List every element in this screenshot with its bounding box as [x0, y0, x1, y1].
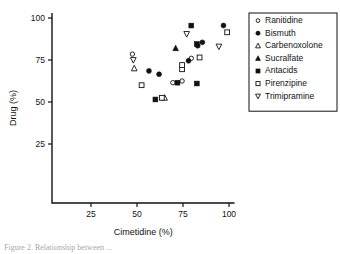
y-tick-label: 100 — [31, 13, 45, 23]
x-tick-label: 50 — [132, 209, 142, 219]
chart-canvas: 255075100255075100Cimetidine (%)Drug (%)… — [0, 0, 340, 254]
legend-marker-antacids — [256, 69, 260, 73]
data-point — [184, 32, 190, 38]
data-point — [216, 44, 222, 50]
x-tick-label: 75 — [178, 209, 188, 219]
legend-label-pirenzipine: Pirenzipine — [265, 78, 307, 88]
data-point — [221, 23, 226, 28]
data-points — [130, 23, 229, 102]
legend-label-bismuth: Bismuth — [265, 28, 296, 38]
legend-marker-bismuth — [256, 31, 260, 35]
axis-spine — [52, 13, 235, 203]
x-tick-label: 25 — [86, 209, 96, 219]
data-point — [197, 55, 202, 60]
axes: 255075100255075100Cimetidine (%)Drug (%) — [8, 13, 236, 237]
y-tick-label: 50 — [36, 97, 46, 107]
data-point — [189, 23, 194, 28]
legend-label-carbenoxolone: Carbenoxolone — [265, 40, 323, 50]
legend-marker-ranitidine — [256, 19, 260, 23]
data-point — [186, 58, 191, 63]
x-tick-label: 100 — [222, 209, 236, 219]
series-antacids — [153, 23, 199, 102]
data-point — [180, 79, 184, 83]
data-point — [130, 52, 134, 56]
legend-marker-pirenzipine — [256, 82, 260, 86]
scatter-plot-figure: 255075100255075100Cimetidine (%)Drug (%)… — [0, 0, 340, 254]
legend-label-trimipramine: Trimipramine — [265, 91, 315, 101]
series-sucralfate — [173, 45, 179, 51]
data-point — [200, 40, 205, 45]
data-point — [139, 83, 144, 88]
data-point — [173, 45, 179, 51]
data-point — [146, 68, 151, 73]
data-point — [131, 65, 137, 71]
legend-label-sucralfate: Sucralfate — [265, 53, 304, 63]
data-point — [175, 80, 180, 85]
data-point — [225, 30, 230, 35]
legend-label-antacids: Antacids — [265, 65, 298, 75]
data-point — [159, 95, 164, 100]
legend-label-ranitidine: Ranitidine — [265, 15, 303, 25]
data-point — [153, 97, 158, 102]
y-tick-label: 75 — [36, 55, 46, 65]
data-point — [171, 80, 175, 84]
data-point — [180, 63, 185, 68]
data-point — [157, 72, 162, 77]
data-point — [194, 42, 199, 47]
chart-legend: RanitidineBismuthCarbenoxoloneSucralfate… — [249, 13, 337, 111]
series-pirenzipine — [139, 30, 229, 100]
x-axis-title: Cimetidine (%) — [114, 227, 173, 237]
data-point — [194, 81, 199, 86]
y-tick-label: 25 — [36, 139, 46, 149]
figure-caption: Figure 2. Relationship between ... — [4, 243, 336, 252]
data-point — [130, 58, 136, 64]
y-axis-title: Drug (%) — [8, 90, 18, 126]
